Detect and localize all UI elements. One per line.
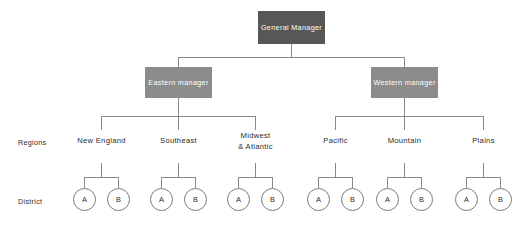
region-new-england[interactable]: New England bbox=[62, 136, 142, 147]
district-circle[interactable]: A bbox=[455, 188, 478, 211]
district-circle[interactable]: A bbox=[376, 188, 399, 211]
node-western-manager-label: Western manager bbox=[373, 78, 435, 87]
district-circle[interactable]: A bbox=[150, 188, 173, 211]
node-eastern-manager-label: Eastern manager bbox=[148, 78, 208, 87]
row-label-regions: Regions bbox=[18, 138, 46, 147]
region-mountain[interactable]: Mountain bbox=[365, 136, 445, 147]
region-southeast[interactable]: Southeast bbox=[139, 136, 219, 147]
region-midwest-atlantic[interactable]: Midwest & Atlantic bbox=[216, 131, 296, 152]
district-circle[interactable]: B bbox=[184, 188, 207, 211]
node-western-manager[interactable]: Western manager bbox=[371, 67, 438, 98]
district-circle[interactable]: B bbox=[341, 188, 364, 211]
node-eastern-manager[interactable]: Eastern manager bbox=[145, 67, 212, 98]
district-circle[interactable]: A bbox=[73, 188, 96, 211]
region-plains[interactable]: Plains bbox=[444, 136, 524, 147]
district-circle[interactable]: A bbox=[307, 188, 330, 211]
region-pacific[interactable]: Pacific bbox=[296, 136, 376, 147]
row-label-district: District bbox=[18, 197, 42, 206]
org-chart: General Manager Eastern manager Western … bbox=[0, 0, 529, 226]
district-circle[interactable]: A bbox=[227, 188, 250, 211]
district-circle[interactable]: B bbox=[107, 188, 130, 211]
district-circle[interactable]: B bbox=[489, 188, 512, 211]
node-general-manager[interactable]: General Manager bbox=[258, 11, 325, 44]
district-circle[interactable]: B bbox=[410, 188, 433, 211]
district-circle[interactable]: B bbox=[261, 188, 284, 211]
node-general-manager-label: General Manager bbox=[261, 23, 322, 32]
